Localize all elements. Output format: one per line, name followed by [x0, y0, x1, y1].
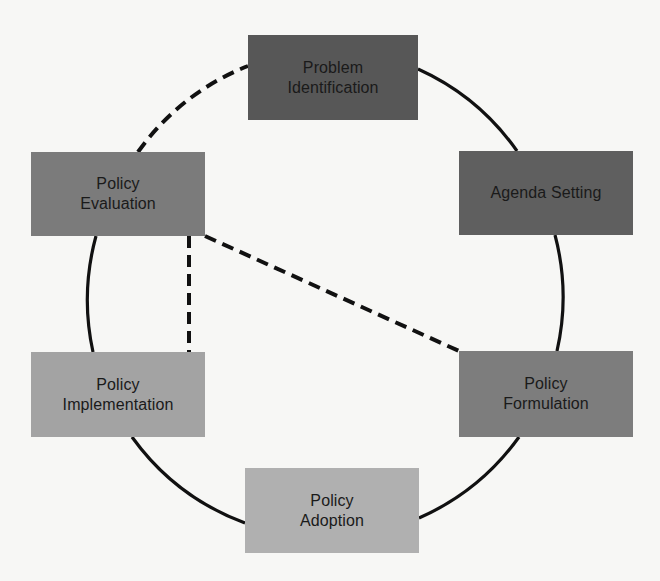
- node-label: Policy Adoption: [300, 491, 364, 531]
- edge-problem-to-agenda: [418, 69, 517, 151]
- node-policy-implementation: Policy Implementation: [31, 352, 205, 437]
- node-agenda-setting: Agenda Setting: [459, 151, 633, 235]
- policy-cycle-diagram: Problem Identification Agenda Setting Po…: [0, 0, 660, 581]
- node-label: Policy Formulation: [503, 374, 589, 414]
- node-label: Agenda Setting: [491, 183, 602, 203]
- edge-agenda-to-formulation: [555, 235, 563, 351]
- node-label: Policy Evaluation: [80, 174, 156, 214]
- node-policy-adoption: Policy Adoption: [245, 468, 419, 553]
- node-label: Policy Implementation: [63, 375, 174, 415]
- edge-adoption-to-implementation: [132, 437, 245, 523]
- edge-implementation-to-evaluation: [87, 236, 96, 352]
- edge-formulation-to-adoption: [419, 437, 519, 518]
- node-label: Problem Identification: [287, 58, 378, 98]
- node-problem-identification: Problem Identification: [248, 35, 418, 120]
- node-policy-formulation: Policy Formulation: [459, 351, 633, 437]
- edge-evaluation-to-formulation-dashed: [205, 236, 459, 351]
- edge-evaluation-to-problem-dashed: [138, 66, 248, 152]
- node-policy-evaluation: Policy Evaluation: [31, 152, 205, 236]
